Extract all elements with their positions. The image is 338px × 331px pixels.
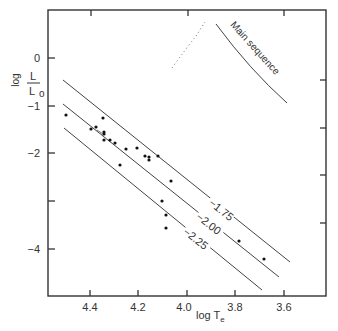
line-minus-1-75 xyxy=(63,80,290,262)
y-tick-label: −1 xyxy=(27,100,40,112)
y-axis-label: log L L o xyxy=(10,70,45,99)
svg-text:o: o xyxy=(39,88,45,99)
line-label-2-25: −2.25 xyxy=(181,225,210,252)
x-tick-label: 4.4 xyxy=(82,301,97,313)
x-tick-label: 4.2 xyxy=(130,301,145,313)
y-ticks xyxy=(48,58,326,249)
y-tick-label: 0 xyxy=(34,52,40,64)
svg-text:L: L xyxy=(29,85,35,97)
hr-diagram: 4.4 4.2 4.0 3.8 3.6 log Te 0 −1 −2 −4 lo… xyxy=(0,0,338,331)
x-axis-label: log Te xyxy=(196,309,225,324)
plot-frame xyxy=(48,10,326,296)
dotted-track xyxy=(172,22,205,68)
line-minus-2-25 xyxy=(64,128,262,290)
y-tick-label: −4 xyxy=(27,243,40,255)
x-tick-label: 4.0 xyxy=(176,301,191,313)
svg-text:L: L xyxy=(30,70,36,82)
svg-text:log: log xyxy=(10,73,21,86)
data-points xyxy=(64,113,265,260)
x-tick-label: 3.8 xyxy=(227,301,242,313)
line-minus-2-00 xyxy=(63,104,279,277)
x-tick-label: 3.6 xyxy=(276,301,291,313)
main-sequence-label: Main sequence xyxy=(229,19,283,77)
y-tick-label: −2 xyxy=(27,147,40,159)
